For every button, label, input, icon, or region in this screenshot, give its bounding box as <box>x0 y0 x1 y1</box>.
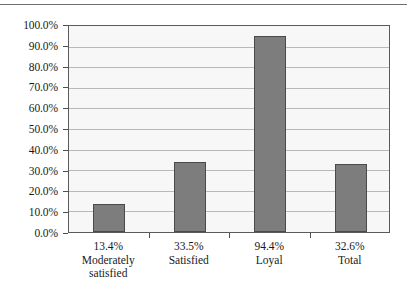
y-axis-label-60: 60.0% <box>29 102 58 114</box>
y-axis-tick <box>63 233 68 234</box>
bar-series <box>69 26 389 232</box>
x-axis-value-label: 94.4% <box>229 240 310 254</box>
x-axis-tick <box>310 233 311 238</box>
x-axis-category-4: 32.6%Total <box>310 240 391 267</box>
x-axis-category-label-line2: satisfied <box>68 267 149 281</box>
y-axis-label-20: 20.0% <box>29 185 58 197</box>
x-axis-category-label: Total <box>310 254 391 268</box>
bar-chart: 100.0% 90.0% 80.0% 70.0% 60.0% 50.0% 40.… <box>0 0 407 287</box>
x-axis-category-2: 33.5%Satisfied <box>149 240 230 267</box>
y-axis-label-50: 50.0% <box>29 123 58 135</box>
plot-area <box>68 25 390 233</box>
x-axis-value-label: 13.4% <box>68 240 149 254</box>
bar <box>335 164 367 232</box>
x-axis: 13.4%Moderatelysatisfied33.5%Satisfied94… <box>68 240 390 286</box>
y-axis-label-10: 10.0% <box>29 206 58 218</box>
x-axis-category-label: Moderately <box>68 254 149 268</box>
y-axis-label-70: 70.0% <box>29 81 58 93</box>
y-axis-label-90: 90.0% <box>29 40 58 52</box>
y-axis-label-40: 40.0% <box>29 144 58 156</box>
bar <box>254 36 286 232</box>
y-axis-label-80: 80.0% <box>29 61 58 73</box>
bar <box>174 162 206 232</box>
y-axis-label-30: 30.0% <box>29 165 58 177</box>
x-axis-category-1: 13.4%Moderatelysatisfied <box>68 240 149 281</box>
x-axis-tick <box>229 233 230 238</box>
x-axis-value-label: 32.6% <box>310 240 391 254</box>
x-axis-category-3: 94.4%Loyal <box>229 240 310 267</box>
bar <box>93 204 125 232</box>
x-axis-tick <box>149 233 150 238</box>
x-axis-category-label: Satisfied <box>149 254 230 268</box>
y-axis: 100.0% 90.0% 80.0% 70.0% 60.0% 50.0% 40.… <box>0 25 64 233</box>
x-axis-category-label: Loyal <box>229 254 310 268</box>
y-axis-label-100: 100.0% <box>23 19 58 31</box>
y-axis-label-0: 0.0% <box>34 227 58 239</box>
x-axis-value-label: 33.5% <box>149 240 230 254</box>
